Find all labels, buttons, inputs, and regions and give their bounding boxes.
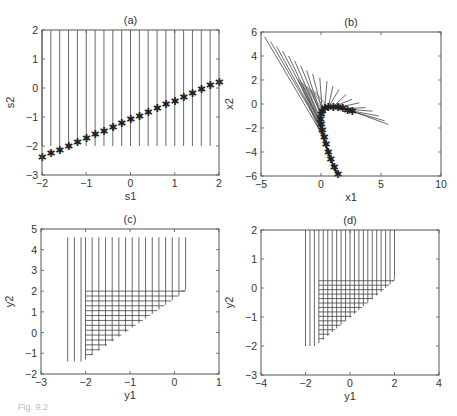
star-marker: ✱ <box>144 106 153 119</box>
x-tick-label: −1 <box>124 376 136 388</box>
star-marker: ✱ <box>55 144 64 157</box>
x-tick-label: −2 <box>80 376 92 388</box>
y-tick-label: 2 <box>251 224 257 236</box>
star-marker: ✱ <box>108 121 117 134</box>
y-tick-label: 2 <box>32 24 38 36</box>
y-tick-label: −2 <box>245 122 257 134</box>
star-marker: ✱ <box>64 140 73 153</box>
y-tick-label: −2 <box>245 340 257 352</box>
x-tick-label: 2 <box>216 177 222 189</box>
y-tick-label: −3 <box>26 169 38 181</box>
star-marker: ✱ <box>179 91 188 104</box>
subplot-a: ✱✱✱✱✱✱✱✱✱✱✱✱✱✱✱✱✱✱✱✱✱−2−1012−3−2−1012(a)… <box>4 14 224 202</box>
x-tick-label: 0 <box>128 177 134 189</box>
star-marker: ✱ <box>126 113 135 126</box>
x-tick-label: −2 <box>300 377 312 389</box>
x-tick-label: 2 <box>392 377 398 389</box>
y-tick-label: 0 <box>251 282 257 294</box>
y-tick-label: 1 <box>32 53 38 65</box>
y-tick-label: 1 <box>251 253 257 265</box>
ray-line <box>352 111 388 124</box>
y-tick-label: 6 <box>251 26 257 38</box>
subplot-d: −4−2024−3−2−1012(d)y1y2 <box>223 214 442 402</box>
star-marker: ✱ <box>170 95 179 108</box>
x-tick-label: 0 <box>347 377 353 389</box>
x-tick-label: 1 <box>172 177 178 189</box>
figure-canvas: ✱✱✱✱✱✱✱✱✱✱✱✱✱✱✱✱✱✱✱✱✱−2−1012−3−2−1012(a)… <box>0 0 457 416</box>
y-tick-label: 2 <box>251 74 257 86</box>
star-marker: ✱ <box>188 87 197 100</box>
y-tick-label: 5 <box>31 223 37 235</box>
x-tick-label: 4 <box>436 377 442 389</box>
y-tick-label: 3 <box>31 264 37 276</box>
y-tick-label: −1 <box>26 111 38 123</box>
x-axis-label: x1 <box>345 191 357 203</box>
star-marker: ✱ <box>90 128 99 141</box>
star-marker: ✱ <box>117 117 126 130</box>
figure-caption: Fig. 9.2 <box>18 402 48 412</box>
subplot-title: (a) <box>124 14 137 26</box>
vertical-trajectory <box>392 230 394 281</box>
x-tick-label: 10 <box>435 178 447 190</box>
star-marker: ✱ <box>152 102 161 115</box>
x-axis-label: y1 <box>344 390 356 402</box>
star-marker: ✱ <box>161 98 170 111</box>
y-axis-label: x2 <box>223 98 235 110</box>
x-axis-label: s1 <box>125 190 137 202</box>
x-tick-label: 0 <box>172 376 178 388</box>
star-marker: ✱ <box>73 136 82 149</box>
y-axis-label: y2 <box>223 297 235 309</box>
x-tick-label: −1 <box>80 177 92 189</box>
y-tick-label: −2 <box>26 140 38 152</box>
y-tick-label: 0 <box>32 82 38 94</box>
subplot-title: (b) <box>344 16 357 28</box>
plot-area: ✱✱✱✱✱✱✱✱✱✱✱✱✱✱✱✱✱✱✱✱✱ <box>37 30 223 164</box>
vertical-trajectory <box>181 237 185 291</box>
subplot-title: (c) <box>124 213 137 225</box>
y-tick-label: 0 <box>31 327 37 339</box>
y-tick-label: −1 <box>245 311 257 323</box>
y-tick-label: −6 <box>245 170 257 182</box>
subplot-c: −3−2−101−2−1012345(c)y1y2 <box>3 213 222 401</box>
y-tick-label: −1 <box>25 347 37 359</box>
x-axis-label: y1 <box>124 389 136 401</box>
y-tick-label: 4 <box>251 50 257 62</box>
star-marker: ✱ <box>197 83 206 96</box>
y-tick-label: 2 <box>31 285 37 297</box>
x-tick-label: 5 <box>378 178 384 190</box>
plot-area <box>306 230 395 346</box>
y-tick-label: −3 <box>245 369 257 381</box>
y-tick-label: 0 <box>251 98 257 110</box>
star-marker: ✱ <box>135 110 144 123</box>
y-axis-label: s2 <box>4 97 16 109</box>
star-marker: ✱ <box>46 147 55 160</box>
x-tick-label: 1 <box>216 376 222 388</box>
subplot-b: ✱✱✱✱✱✱✱✱✱✱✱✱✱✱✱✱✱✱−50510−6−4−20246(b)x1x… <box>223 16 447 203</box>
subplot-title: (d) <box>343 214 356 226</box>
x-tick-label: 0 <box>318 178 324 190</box>
y-tick-label: −4 <box>245 146 257 158</box>
plot-area <box>68 237 186 361</box>
star-marker: ✱ <box>206 79 215 92</box>
star-marker: ✱ <box>348 105 357 118</box>
star-marker: ✱ <box>82 132 91 145</box>
y-axis-label: y2 <box>3 296 15 308</box>
y-tick-label: 4 <box>31 244 37 256</box>
star-marker: ✱ <box>99 125 108 138</box>
plot-area: ✱✱✱✱✱✱✱✱✱✱✱✱✱✱✱✱✱✱ <box>265 37 389 182</box>
y-tick-label: 1 <box>31 306 37 318</box>
y-tick-label: −2 <box>25 368 37 380</box>
